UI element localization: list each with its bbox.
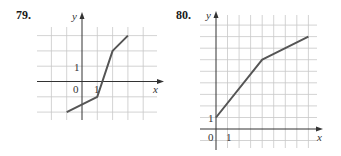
x-label-80: x	[316, 131, 322, 143]
graph-80: 80. y x 0	[176, 8, 323, 150]
y-tick-label-79: 1	[74, 61, 80, 73]
x-label-79: x	[152, 83, 158, 95]
y-label-79: y	[71, 10, 77, 22]
origin-label-80: 0	[208, 131, 214, 143]
y-tick-label-80: 1	[208, 112, 214, 124]
graph-79: 79. y x 0 1 1	[16, 8, 164, 120]
figure-canvas: 79. y x 0 1 1 80.	[0, 0, 341, 156]
origin-label-79: 0	[73, 83, 79, 95]
y-axis-arrow-icon	[80, 12, 85, 19]
problem-number-80: 80.	[176, 8, 191, 22]
x-axis-arrow-icon	[157, 79, 164, 84]
problem-number-79: 79.	[16, 8, 31, 22]
y-label-80: y	[205, 9, 211, 21]
grid-80	[200, 15, 317, 148]
grid-79	[37, 27, 157, 120]
y-axis-arrow-icon	[214, 11, 219, 18]
x-tick-label-80: 1	[226, 131, 232, 143]
